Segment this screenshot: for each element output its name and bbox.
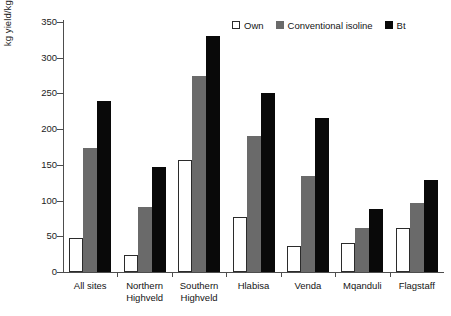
plot-area: [63, 22, 444, 272]
x-axis-tick-mark: [117, 272, 118, 277]
bar-own: [341, 243, 355, 272]
bar-conv: [138, 207, 152, 272]
bar-own: [287, 246, 301, 272]
bar-own: [178, 160, 192, 272]
category-label-line1: Venda: [281, 280, 335, 292]
bt-swatch-icon: [385, 21, 393, 29]
legend-item: Bt: [385, 20, 406, 31]
bar-bt: [315, 118, 329, 272]
category-label-line1: Northern: [117, 280, 171, 292]
x-axis-category-label: All sites: [63, 280, 117, 292]
legend-item: Own: [232, 20, 264, 31]
chart-legend: OwnConventional isolineBt: [232, 18, 418, 32]
own-swatch-icon: [232, 21, 240, 29]
category-label-line1: All sites: [63, 280, 117, 292]
y-axis-tick-label: 150: [21, 159, 57, 170]
bar-bt: [97, 101, 111, 272]
x-axis-tick-mark: [335, 272, 336, 277]
category-label-line1: Flagstaff: [390, 280, 444, 292]
category-label-line1: Hlabisa: [226, 280, 280, 292]
bar-chart-figure: kg yield/kg seed planted 050100150200250…: [0, 0, 451, 316]
bar-conv: [247, 136, 261, 272]
legend-label: Own: [244, 20, 264, 31]
bar-own: [233, 217, 247, 272]
y-axis-tick-label: 50: [21, 230, 57, 241]
bar-bt: [369, 209, 383, 272]
category-label-line1: Mqanduli: [335, 280, 389, 292]
y-axis-title: kg yield/kg seed planted: [2, 0, 18, 74]
x-axis-tick-mark: [172, 272, 173, 277]
bar-conv: [83, 148, 97, 272]
x-axis-category-label: NorthernHighveld: [117, 280, 171, 303]
bar-conv: [192, 76, 206, 272]
bar-conv: [410, 203, 424, 272]
legend-item: Conventional isoline: [276, 20, 373, 31]
bar-bt: [261, 93, 275, 272]
bar-own: [69, 238, 83, 272]
y-axis-tick-label: 200: [21, 123, 57, 134]
legend-label: Conventional isoline: [288, 20, 373, 31]
x-axis-tick-mark: [390, 272, 391, 277]
bar-own: [396, 228, 410, 272]
x-axis-category-label: Mqanduli: [335, 280, 389, 292]
bar-conv: [355, 228, 369, 272]
category-label-line2: Highveld: [172, 292, 226, 304]
y-axis-tick-label: 0: [21, 266, 57, 277]
category-label-line2: Highveld: [117, 292, 171, 304]
x-axis-category-label: Hlabisa: [226, 280, 280, 292]
x-axis-line: [63, 272, 444, 273]
y-axis-tick-label: 350: [21, 16, 57, 27]
y-axis-tick-label: 300: [21, 52, 57, 63]
x-axis-category-label: SouthernHighveld: [172, 280, 226, 303]
bar-bt: [152, 167, 166, 272]
bar-bt: [424, 180, 438, 272]
x-axis-tick-mark: [281, 272, 282, 277]
y-axis-tick-mark: [57, 272, 64, 273]
y-axis-tick-label: 250: [21, 87, 57, 98]
x-axis-category-label: Flagstaff: [390, 280, 444, 292]
conventional-swatch-icon: [276, 21, 284, 29]
x-axis-category-label: Venda: [281, 280, 335, 292]
bar-own: [124, 255, 138, 272]
bar-conv: [301, 176, 315, 272]
category-label-line1: Southern: [172, 280, 226, 292]
y-axis-tick-label: 100: [21, 195, 57, 206]
legend-label: Bt: [397, 20, 406, 31]
bar-bt: [206, 36, 220, 272]
x-axis-tick-mark: [226, 272, 227, 277]
